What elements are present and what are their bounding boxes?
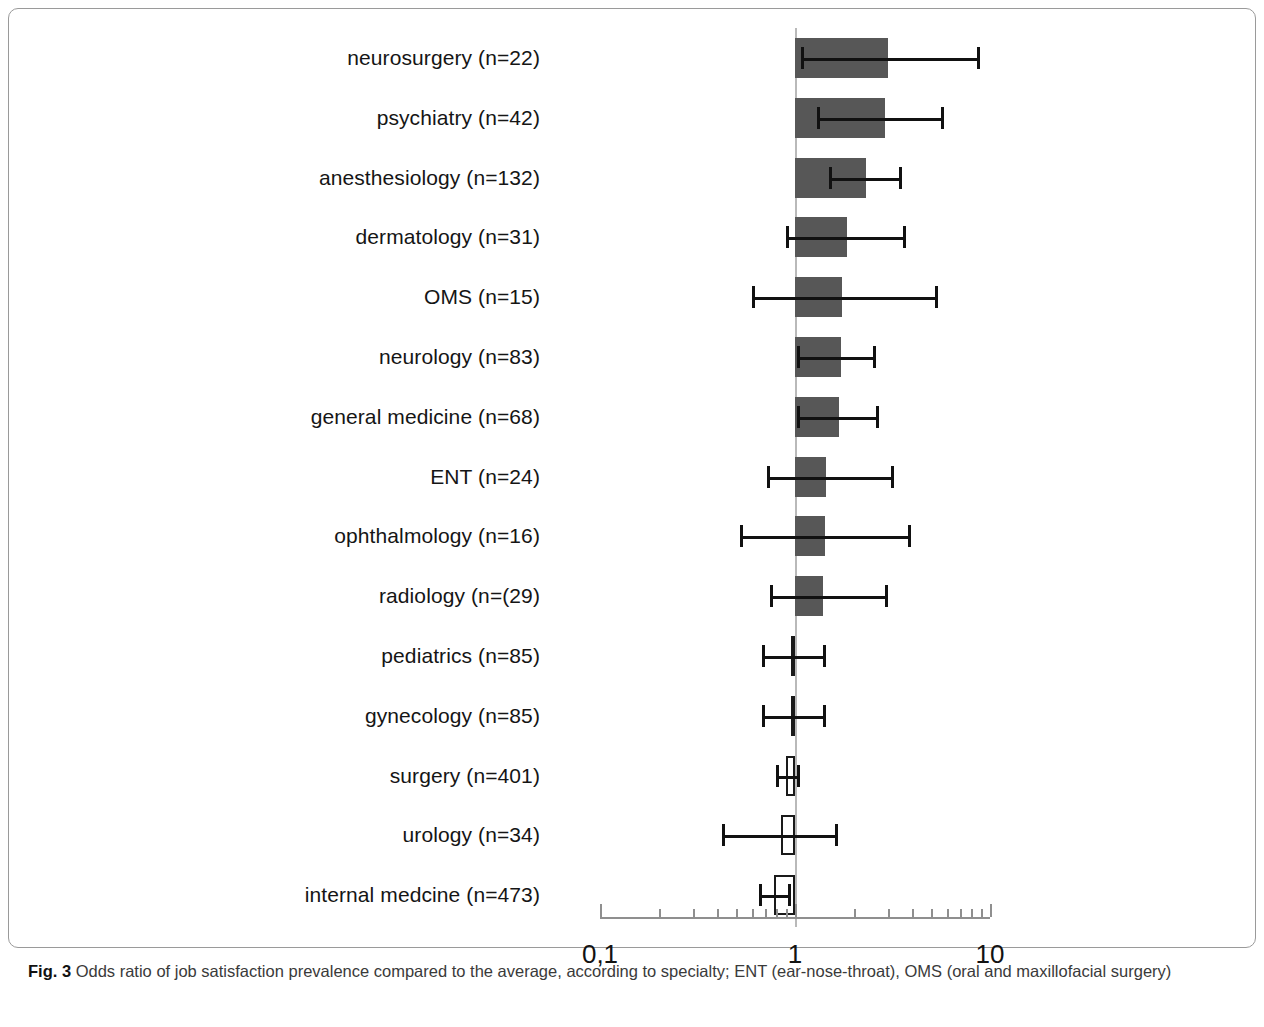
axis-tick-minor xyxy=(786,909,788,917)
confidence-interval-line xyxy=(797,357,873,360)
confidence-interval-cap-high xyxy=(823,645,826,667)
confidence-interval-cap-high xyxy=(903,226,906,248)
confidence-interval-cap-high xyxy=(797,765,800,787)
confidence-interval-line xyxy=(829,178,898,181)
confidence-interval-line xyxy=(817,118,941,121)
confidence-interval-cap-high xyxy=(788,884,791,906)
confidence-interval-cap-low xyxy=(762,705,765,727)
axis-tick-major xyxy=(600,904,602,917)
row-plot xyxy=(0,626,1264,686)
row-plot xyxy=(0,506,1264,566)
confidence-interval-line xyxy=(722,835,835,838)
confidence-interval-line xyxy=(770,596,886,599)
confidence-interval-cap-low xyxy=(829,167,832,189)
axis-tick-minor xyxy=(981,909,983,917)
chart-row: anesthesiology (n=132) xyxy=(0,148,1264,208)
axis-tick-major xyxy=(990,904,992,917)
chart-row: gynecology (n=85) xyxy=(0,686,1264,746)
confidence-interval-cap-high xyxy=(899,167,902,189)
chart-row: general medicine (n=68) xyxy=(0,387,1264,447)
confidence-interval-cap-low xyxy=(752,286,755,308)
confidence-interval-line xyxy=(786,237,903,240)
axis-tick-minor xyxy=(752,909,754,917)
row-plot xyxy=(0,148,1264,208)
row-plot xyxy=(0,566,1264,626)
confidence-interval-cap-high xyxy=(977,47,980,69)
chart-row: neurosurgery (n=22) xyxy=(0,28,1264,88)
row-plot xyxy=(0,28,1264,88)
row-plot xyxy=(0,327,1264,387)
chart-row: urology (n=34) xyxy=(0,805,1264,865)
confidence-interval-cap-low xyxy=(801,47,804,69)
chart-row: dermatology (n=31) xyxy=(0,207,1264,267)
figure-number: Fig. 3 xyxy=(28,962,71,980)
confidence-interval-line xyxy=(762,656,823,659)
confidence-interval-cap-high xyxy=(908,525,911,547)
confidence-interval-line xyxy=(762,716,823,719)
confidence-interval-cap-high xyxy=(891,466,894,488)
confidence-interval-line xyxy=(752,297,935,300)
axis-tick-minor xyxy=(888,909,890,917)
confidence-interval-cap-low xyxy=(722,824,725,846)
axis-tick-minor xyxy=(736,909,738,917)
axis-tick-minor xyxy=(947,909,949,917)
confidence-interval-line xyxy=(767,477,891,480)
confidence-interval-cap-low xyxy=(740,525,743,547)
confidence-interval-line xyxy=(776,776,797,779)
odds-ratio-forest-chart: neurosurgery (n=22)psychiatry (n=42)anes… xyxy=(0,0,1264,948)
axis-tick-major xyxy=(795,904,797,917)
axis-tick-minor xyxy=(971,909,973,917)
axis-tick-minor xyxy=(912,909,914,917)
axis-tick-minor xyxy=(659,909,661,917)
axis-tick-minor xyxy=(693,909,695,917)
row-plot xyxy=(0,447,1264,507)
confidence-interval-cap-low xyxy=(797,346,800,368)
chart-row: radiology (n=(29) xyxy=(0,566,1264,626)
chart-row: OMS (n=15) xyxy=(0,267,1264,327)
chart-row: ophthalmology (n=16) xyxy=(0,506,1264,566)
row-plot xyxy=(0,746,1264,806)
confidence-interval-cap-high xyxy=(885,585,888,607)
figure-caption-text: Odds ratio of job satisfaction prevalenc… xyxy=(71,962,1171,980)
row-plot xyxy=(0,267,1264,327)
axis-tick-minor xyxy=(931,909,933,917)
row-plot xyxy=(0,387,1264,447)
chart-row: psychiatry (n=42) xyxy=(0,88,1264,148)
confidence-interval-cap-low xyxy=(767,466,770,488)
confidence-interval-cap-low xyxy=(786,226,789,248)
axis-tick-minor xyxy=(776,909,778,917)
confidence-interval-cap-low xyxy=(762,645,765,667)
row-plot xyxy=(0,686,1264,746)
confidence-interval-line xyxy=(801,58,977,61)
confidence-interval-line xyxy=(759,895,788,898)
axis-tick-minor xyxy=(854,909,856,917)
confidence-interval-cap-low xyxy=(770,585,773,607)
chart-row: pediatrics (n=85) xyxy=(0,626,1264,686)
chart-row: neurology (n=83) xyxy=(0,327,1264,387)
row-plot xyxy=(0,88,1264,148)
confidence-interval-cap-high xyxy=(876,406,879,428)
confidence-interval-cap-high xyxy=(823,705,826,727)
row-plot xyxy=(0,207,1264,267)
axis-tick-minor xyxy=(960,909,962,917)
confidence-interval-cap-low xyxy=(776,765,779,787)
axis-tick-minor xyxy=(717,909,719,917)
axis-tick-minor xyxy=(765,909,767,917)
confidence-interval-cap-high xyxy=(835,824,838,846)
confidence-interval-line xyxy=(797,417,876,420)
confidence-interval-cap-low xyxy=(797,406,800,428)
confidence-interval-line xyxy=(740,536,908,539)
chart-row: ENT (n=24) xyxy=(0,447,1264,507)
confidence-interval-cap-high xyxy=(935,286,938,308)
confidence-interval-cap-high xyxy=(941,107,944,129)
x-axis-line xyxy=(600,917,990,919)
figure-caption: Fig. 3 Odds ratio of job satisfaction pr… xyxy=(28,958,1238,984)
confidence-interval-cap-high xyxy=(873,346,876,368)
confidence-interval-cap-low xyxy=(817,107,820,129)
row-plot xyxy=(0,805,1264,865)
confidence-interval-cap-low xyxy=(759,884,762,906)
chart-row: surgery (n=401) xyxy=(0,746,1264,806)
figure-page: neurosurgery (n=22)psychiatry (n=42)anes… xyxy=(0,0,1264,1027)
